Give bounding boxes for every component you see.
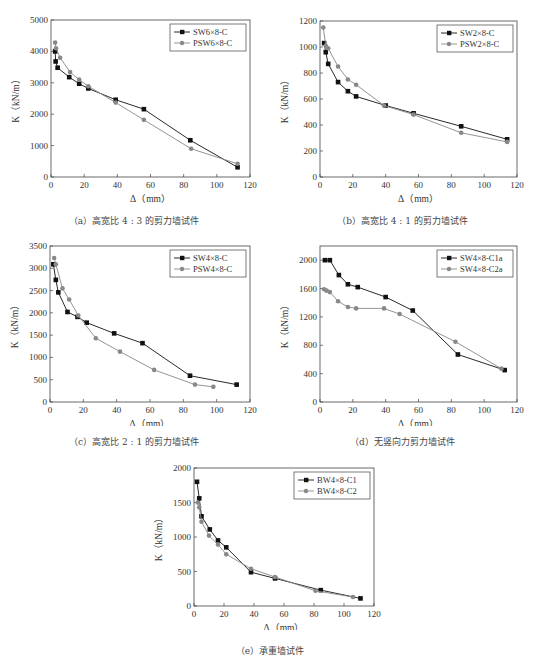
data-point-circle [346,305,351,310]
x-tick-label: 120 [367,609,381,619]
chart-panel-c: 0204060801001200500100015002000250030003… [0,226,268,426]
data-point-square [383,295,388,300]
y-axis-label: K（kN/m） [279,300,290,349]
data-point-circle [113,100,118,105]
data-point-square [55,65,60,70]
data-point-circle [53,40,58,45]
data-point-circle [326,46,331,51]
data-point-square [346,89,351,94]
x-tick-label: 60 [146,180,156,190]
x-tick-label: 20 [348,405,358,415]
data-point-circle [249,566,254,571]
data-point-circle [67,297,72,302]
data-point-square [56,290,61,295]
y-tick-label: 2000 [29,308,48,318]
x-tick-label: 80 [179,180,189,190]
legend: SW6×8-CPSW6×8-C [170,24,246,51]
data-point-circle [94,336,99,341]
data-point-circle [207,533,212,538]
y-tick-label: 1000 [29,352,48,362]
x-axis-label: Δ（mm） [130,193,171,204]
data-point-circle [505,140,510,145]
series-line [53,264,236,384]
data-point-square [328,258,333,263]
data-point-square [77,81,82,86]
series-line [324,289,501,368]
y-axis-label: K（kN/m） [153,513,164,562]
x-tick-label: 80 [179,405,189,415]
data-point-circle [211,385,216,390]
chart-panel-e: 0204060801001200500100015002000Δ（mm）K（kN… [130,450,410,630]
y-tick-label: 400 [304,120,318,130]
data-point-circle [499,366,504,371]
data-point-square [199,514,204,519]
data-point-circle [453,339,458,344]
data-point-square [355,285,360,290]
data-point-circle [60,286,65,291]
legend-entry-label: SW4×8-C2a [460,264,503,274]
y-tick-label: 3500 [29,241,48,251]
data-point-circle [351,595,356,600]
data-point-circle [397,312,402,317]
data-point-square [188,138,193,143]
data-point-circle [76,313,81,318]
x-tick-label: 20 [79,405,89,415]
y-axis-label: K（kN/m） [10,74,21,123]
legend: BW4×8-C1BW4×8-C2 [294,472,370,499]
y-tick-label: 1000 [30,141,49,151]
legend: SW2×8-CPSW2×8-C [437,25,513,52]
y-tick-label: 500 [34,375,48,385]
data-point-square [326,62,331,67]
data-point-circle [77,77,82,82]
x-axis-label: Δ（mm） [130,418,171,426]
data-point-square [197,496,202,501]
x-tick-label: 0 [192,609,197,619]
x-tick-label: 40 [250,609,260,619]
data-point-circle [54,46,59,51]
data-point-square [67,75,72,80]
y-tick-label: 1500 [29,330,48,340]
y-tick-label: 3000 [30,78,49,88]
data-point-circle [336,64,341,69]
y-tick-label: 2000 [173,463,192,473]
data-point-circle [118,349,123,354]
x-tick-label: 100 [337,609,351,619]
caption-c: （c）高宽比 2 : 1 的剪力墙试件 [0,435,268,448]
chart-panel-a: 020406080100120010002000300040005000Δ（mm… [0,0,268,205]
series-line [198,503,353,598]
x-tick-label: 20 [348,180,358,190]
x-tick-label: 120 [510,405,524,415]
x-tick-label: 0 [48,405,53,415]
x-tick-label: 20 [220,609,230,619]
data-point-circle [199,520,204,525]
x-tick-label: 100 [477,180,491,190]
data-point-circle [313,589,318,594]
y-tick-label: 800 [304,68,318,78]
legend-entry-label: PSW2×8-C [460,39,500,49]
x-tick-label: 120 [243,180,257,190]
data-point-circle [354,306,359,311]
x-tick-label: 100 [210,180,224,190]
series-line [55,43,237,164]
data-point-circle [58,55,63,60]
legend-entry-label: BW4×8-C2 [317,486,357,496]
y-tick-label: 1600 [299,284,318,294]
series-line [324,43,507,139]
data-point-circle [189,146,194,151]
x-tick-label: 60 [414,405,424,415]
data-point-square [410,308,415,313]
data-point-circle [142,118,147,123]
x-tick-label: 0 [318,405,323,415]
legend-entry-label: PSW6×8-C [193,38,233,48]
data-point-square [234,382,239,387]
y-tick-label: 1000 [299,42,318,52]
y-tick-label: 2500 [29,286,48,296]
data-point-circle [411,112,416,117]
data-point-circle [382,103,387,108]
data-point-square [346,282,351,287]
data-point-square [195,480,200,485]
data-point-square [323,50,328,55]
y-tick-label: 0 [43,397,48,407]
y-tick-label: 2000 [299,255,318,265]
x-axis-label: Δ（mm） [398,418,439,426]
